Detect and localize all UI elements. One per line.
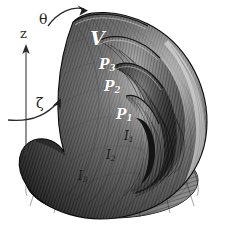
spiral-surface-illustration <box>0 0 228 231</box>
zeta-arc <box>8 102 58 120</box>
zeta-arrowhead <box>53 98 62 110</box>
scroll-body <box>19 12 207 218</box>
figure-container: z θ ζ V P3 P2 P1 I1 I2 I3 <box>0 0 228 231</box>
